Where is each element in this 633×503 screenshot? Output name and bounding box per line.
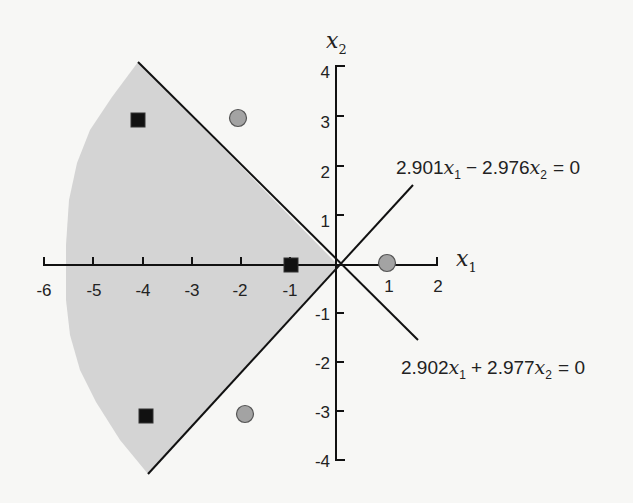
y-tick-label: 4 bbox=[321, 63, 330, 82]
eq-lower-var1: x bbox=[449, 356, 460, 378]
square-marker bbox=[284, 258, 298, 272]
upper-line-equation: 2.901x1−2.976x2= 0 bbox=[396, 156, 580, 182]
eq-lower-sub2: 2 bbox=[545, 368, 552, 382]
square-marker bbox=[131, 113, 145, 127]
y-tick-label: 1 bbox=[321, 212, 330, 231]
x-tick-label: -4 bbox=[135, 281, 150, 300]
eq-lower-coef2: 2.977 bbox=[487, 357, 535, 378]
square-marker bbox=[139, 409, 153, 423]
x-tick-label: -5 bbox=[86, 281, 101, 300]
eq-lower-var2: x bbox=[535, 356, 546, 378]
eq-lower-rhs: = 0 bbox=[558, 357, 585, 378]
eq-upper-var2: x bbox=[530, 156, 541, 178]
eq-lower-sub1: 1 bbox=[459, 368, 466, 382]
eq-upper-sub2: 2 bbox=[540, 168, 547, 182]
y-tick-label: -2 bbox=[315, 354, 330, 373]
x1-axis-label: x1 bbox=[456, 246, 477, 275]
x1-axis-sub: 1 bbox=[468, 260, 476, 275]
y-tick-label: -3 bbox=[315, 403, 330, 422]
circle-marker bbox=[230, 110, 247, 127]
eq-lower-coef1: 2.902 bbox=[401, 357, 449, 378]
x-tick-label: 1 bbox=[384, 277, 393, 296]
eq-lower-op: + bbox=[471, 357, 482, 378]
eq-upper-op: − bbox=[466, 157, 477, 178]
decision-boundary-diagram: -6 -5 -4 -3 -2 -1 1 2 4 3 2 1 -1 -2 -3 -… bbox=[0, 0, 633, 503]
lower-line-equation: 2.902x1+2.977x2= 0 bbox=[401, 356, 585, 382]
y-tick-label: 3 bbox=[321, 113, 330, 132]
circle-marker bbox=[237, 406, 254, 423]
x2-axis-var: x bbox=[326, 28, 339, 53]
y-tick-label: -1 bbox=[315, 305, 330, 324]
eq-upper-coef1: 2.901 bbox=[396, 157, 444, 178]
x-tick-label: -2 bbox=[232, 281, 247, 300]
y-tick-label: 2 bbox=[321, 163, 330, 182]
x-tick-label: -1 bbox=[282, 281, 297, 300]
x-tick-label: -6 bbox=[36, 281, 51, 300]
eq-upper-var1: x bbox=[444, 156, 455, 178]
circle-marker bbox=[379, 255, 396, 272]
y-tick-label: -4 bbox=[315, 452, 330, 471]
eq-upper-sub1: 1 bbox=[454, 168, 461, 182]
x1-axis-var: x bbox=[456, 246, 469, 271]
x-tick-label: 2 bbox=[433, 277, 442, 296]
x-tick-label: -3 bbox=[184, 281, 199, 300]
x2-axis-sub: 2 bbox=[338, 42, 346, 57]
x2-axis-label: x2 bbox=[326, 28, 347, 57]
eq-upper-coef2: 2.976 bbox=[482, 157, 530, 178]
eq-upper-rhs: = 0 bbox=[553, 157, 580, 178]
